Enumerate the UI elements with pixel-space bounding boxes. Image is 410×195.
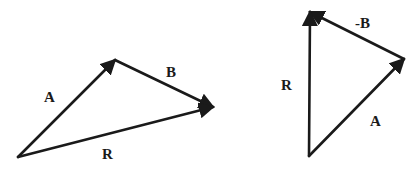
label-neg-b: -B bbox=[355, 15, 370, 31]
vector-subtraction-diagram: -B R A bbox=[281, 12, 404, 156]
label-r: R bbox=[102, 146, 113, 162]
label-a: A bbox=[370, 113, 381, 129]
vector-a-arrow bbox=[309, 59, 404, 156]
label-a: A bbox=[44, 89, 55, 105]
vector-a-arrow bbox=[18, 60, 115, 157]
vector-diagram: A B R -B R A bbox=[0, 0, 410, 195]
vector-addition-diagram: A B R bbox=[18, 60, 213, 162]
vector-r-arrow bbox=[309, 12, 310, 156]
label-b: B bbox=[166, 64, 176, 80]
vector-b-arrow bbox=[115, 60, 213, 107]
vector-r-arrow bbox=[18, 107, 213, 157]
label-r: R bbox=[281, 77, 292, 93]
